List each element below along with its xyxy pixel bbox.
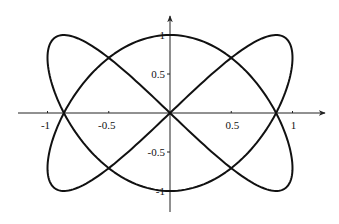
x-tick-label: 0.5 (225, 119, 239, 131)
x-tick-label: -1 (41, 119, 50, 131)
x-tick-label: -0.5 (98, 119, 116, 131)
y-tick-label: 0.5 (151, 68, 165, 80)
lissajous-chart: -1-0.50.5110.5-0.5-1 (0, 0, 339, 224)
y-tick-label: -0.5 (148, 146, 166, 158)
x-tick-label: 1 (291, 119, 297, 131)
